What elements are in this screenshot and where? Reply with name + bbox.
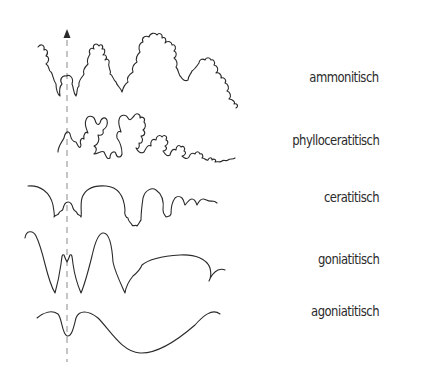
label-ammonitisch: ammonitisch <box>310 69 379 85</box>
suture-goniatitisch <box>25 232 225 293</box>
arrow-up-icon <box>64 29 71 38</box>
dashed-axis <box>64 29 71 362</box>
label-goniatitisch: goniatitisch <box>318 251 379 267</box>
suture-phylloceratitisch <box>58 114 235 162</box>
label-agoniatitisch: agoniatitisch <box>311 303 379 319</box>
label-ceratitisch: ceratitisch <box>324 189 379 205</box>
suture-ammonitisch <box>38 33 237 108</box>
suture-ceratitisch <box>28 186 217 226</box>
suture-agoniatitisch <box>37 312 220 353</box>
label-phylloceratitisch: phylloceratitisch <box>292 132 379 148</box>
